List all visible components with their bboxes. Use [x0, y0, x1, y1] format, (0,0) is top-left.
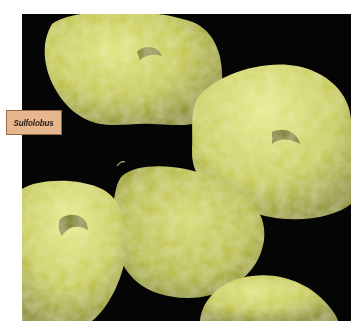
debris-filament — [117, 162, 125, 166]
sulfolobus-cells-image — [22, 14, 351, 321]
cell-bottom-left — [22, 181, 127, 321]
sem-micrograph — [22, 14, 351, 321]
species-label: Sulfolobus — [6, 110, 62, 135]
species-label-text: Sulfolobus — [14, 117, 54, 128]
